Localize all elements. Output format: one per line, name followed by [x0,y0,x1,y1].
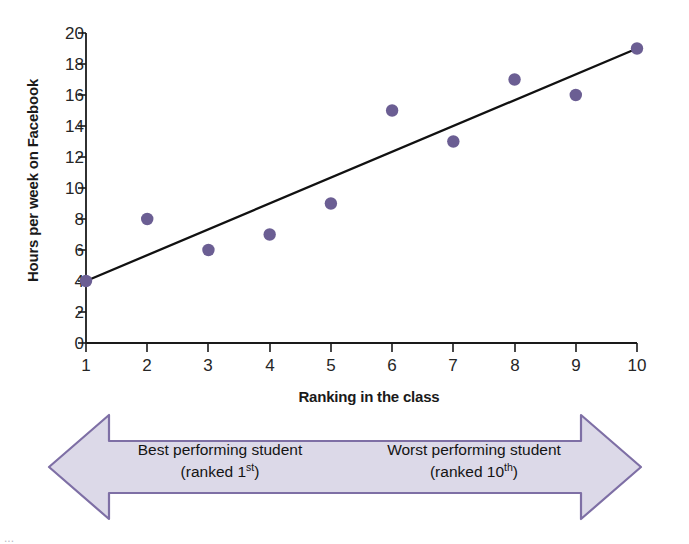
plot-area [0,0,689,400]
best-rank-pre: (ranked 1 [181,463,246,480]
worst-rank-pre: (ranked 10 [430,463,504,480]
x-tick-label: 5 [311,357,351,374]
data-point [141,213,153,225]
y-axis-ticks [78,33,86,343]
worst-performer-line1: Worst performing student [387,441,561,458]
figure-caption: ... [4,531,685,544]
worst-rank-post: ) [513,463,518,480]
x-tick-label: 2 [127,357,167,374]
data-point [508,73,520,85]
x-tick-label: 7 [433,357,473,374]
ranking-range-banner: Best performing student (ranked 1st) Wor… [47,411,643,523]
x-tick-label: 4 [250,357,290,374]
data-point [631,42,643,54]
data-point [386,104,398,116]
trend-line [86,49,637,282]
x-axis-title: Ranking in the class [86,388,652,405]
worst-performer-label: Worst performing student (ranked 10th) [359,439,589,484]
best-performer-label: Best performing student (ranked 1st) [105,439,335,484]
best-rank-post: ) [254,463,259,480]
x-tick-label: 9 [556,357,596,374]
data-point [202,244,214,256]
x-tick-label: 8 [495,357,535,374]
best-performer-line1: Best performing student [138,441,303,458]
x-axis-ticks [86,343,637,352]
data-point [325,197,337,209]
data-point [570,89,582,101]
x-tick-label: 10 [617,357,657,374]
worst-performer-line2: (ranked 10th) [359,461,589,483]
data-point [80,275,92,287]
data-point [447,135,459,147]
worst-rank-suffix: th [504,461,513,473]
data-point [263,228,275,240]
x-tick-label: 1 [66,357,106,374]
x-tick-label: 6 [372,357,412,374]
x-axis-tick-labels: 1 2 3 4 5 6 7 8 9 10 [0,357,689,381]
x-tick-label: 3 [188,357,228,374]
best-performer-line2: (ranked 1st) [105,461,335,483]
